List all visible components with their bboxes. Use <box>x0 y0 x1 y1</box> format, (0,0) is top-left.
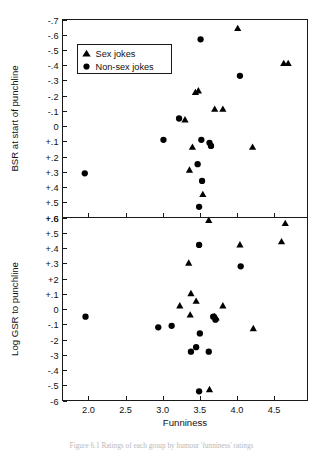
y-tick-label-upper-1: -.6 <box>48 31 59 41</box>
data-point-circle <box>197 330 203 336</box>
y-tick-label-lower-8: -2 <box>50 336 58 346</box>
plot-frame-lower <box>63 218 308 401</box>
data-point-circle <box>194 161 200 167</box>
panel-lower: +.6+.5+.4+.3+2+.10-.1-2-3-.4-.5-6 <box>45 214 307 407</box>
data-point-triangle <box>236 241 243 247</box>
y-axis-title-lower: Log GSR to punchline <box>9 262 20 356</box>
data-point-triangle <box>250 325 257 331</box>
y-tick-label-lower-12: -6 <box>50 397 58 407</box>
legend-marker-circle <box>83 63 89 69</box>
figure-container: -.7-.6-.5-.4-.3-.2-.10+.1+.2+.3+.4+.5+.6… <box>0 0 323 450</box>
x-tick-label-5: 4.5 <box>268 405 281 415</box>
y-tick-label-lower-5: +.1 <box>45 290 58 300</box>
data-point-triangle <box>206 386 213 392</box>
y-tick-label-upper-11: +.4 <box>45 183 58 193</box>
y-tick-label-upper-7: 0 <box>53 122 58 132</box>
data-point-circle <box>196 388 202 394</box>
data-point-triangle <box>282 220 289 226</box>
data-point-triangle <box>186 166 193 172</box>
x-tick-label-1: 2.5 <box>119 405 132 415</box>
data-point-triangle <box>187 311 194 317</box>
y-tick-label-lower-10: -.4 <box>48 366 59 376</box>
scatter-plot-figure: -.7-.6-.5-.4-.3-.2-.10+.1+.2+.3+.4+.5+.6… <box>0 0 323 450</box>
series-upper-0 <box>181 25 291 223</box>
y-tick-label-lower-9: -3 <box>50 351 58 361</box>
data-point-triangle <box>193 297 200 303</box>
y-tick-label-lower-6: 0 <box>53 305 58 315</box>
data-point-circle <box>199 178 205 184</box>
data-point-circle <box>197 36 203 42</box>
x-tick-label-3: 3.5 <box>193 405 206 415</box>
figure-caption: Figure 6.1 Ratings of each group by humo… <box>0 441 323 450</box>
y-tick-label-upper-6: -.1 <box>48 107 59 117</box>
y-tick-label-lower-2: +.4 <box>45 244 58 254</box>
y-tick-label-lower-3: +.3 <box>45 259 58 269</box>
x-tick-label-2: 3.0 <box>156 405 169 415</box>
data-point-triangle <box>187 290 194 296</box>
data-point-triangle <box>176 302 183 308</box>
data-point-triangle <box>278 238 285 244</box>
data-point-circle <box>168 323 174 329</box>
data-point-circle <box>237 73 243 79</box>
y-tick-label-lower-7: -.1 <box>48 320 59 330</box>
data-point-circle <box>82 313 88 319</box>
data-point-triangle <box>211 105 218 111</box>
data-point-circle <box>206 349 212 355</box>
data-point-circle <box>188 349 194 355</box>
data-point-circle <box>82 170 88 176</box>
y-tick-label-upper-5: -.2 <box>48 92 59 102</box>
data-point-circle <box>208 143 214 149</box>
legend: Sex jokesNon-sex jokes <box>78 45 172 74</box>
data-point-triangle <box>199 191 206 197</box>
x-tick-label-0: 2.0 <box>82 405 95 415</box>
y-tick-label-upper-10: +.3 <box>45 168 58 178</box>
y-tick-label-upper-8: +.1 <box>45 137 58 147</box>
data-point-circle <box>196 204 202 210</box>
y-tick-label-lower-4: +2 <box>48 275 58 285</box>
y-tick-label-upper-3: -.4 <box>48 61 59 71</box>
y-tick-label-upper-4: -.3 <box>48 76 59 86</box>
data-point-circle <box>160 137 166 143</box>
y-tick-label-lower-11: -.5 <box>48 381 59 391</box>
y-tick-label-lower-1: +.5 <box>45 229 58 239</box>
x-axis-title: Funniness <box>163 417 207 428</box>
y-tick-label-upper-12: +.5 <box>45 198 58 208</box>
data-point-circle <box>176 115 182 121</box>
data-point-triangle <box>234 25 241 31</box>
data-point-circle <box>193 344 199 350</box>
y-tick-label-lower-0: +.6 <box>45 214 58 224</box>
legend-label-1: Non-sex jokes <box>96 62 155 72</box>
x-tick-label-4: 4.0 <box>231 405 244 415</box>
data-point-circle <box>196 242 202 248</box>
y-axis-title-upper: BSR at start of punchline <box>9 65 20 171</box>
data-point-triangle <box>219 105 226 111</box>
legend-label-0: Sex jokes <box>96 49 136 59</box>
data-point-triangle <box>249 143 256 149</box>
data-point-circle <box>212 317 218 323</box>
data-point-circle <box>198 137 204 143</box>
series-lower-0 <box>176 220 289 393</box>
y-tick-label-upper-2: -.5 <box>48 46 59 56</box>
data-point-circle <box>155 324 161 330</box>
data-point-triangle <box>189 143 196 149</box>
series-lower-1 <box>82 242 243 395</box>
data-point-triangle <box>185 259 192 265</box>
y-tick-label-upper-0: -.7 <box>48 16 59 26</box>
data-point-triangle <box>219 302 226 308</box>
y-tick-label-upper-9: +.2 <box>45 153 58 163</box>
data-point-triangle <box>181 116 188 122</box>
data-point-triangle <box>285 60 292 66</box>
data-point-circle <box>238 263 244 269</box>
